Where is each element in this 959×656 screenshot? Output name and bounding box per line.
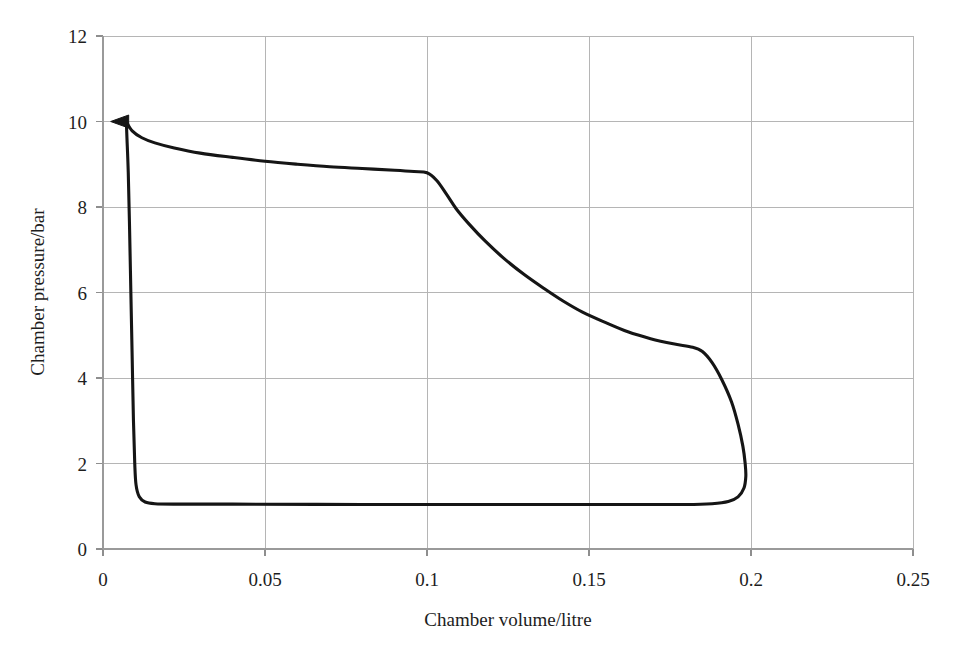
chart-background: [0, 0, 959, 656]
y-tick-label: 6: [78, 283, 88, 304]
y-tick-label: 4: [78, 368, 88, 389]
x-tick-label: 0.2: [739, 569, 763, 590]
x-tick-label: 0.15: [572, 569, 605, 590]
y-tick-label: 8: [78, 197, 88, 218]
pressure-volume-chart: 00.050.10.150.20.25 024681012 Chamber vo…: [0, 0, 959, 656]
y-tick-label: 2: [78, 454, 88, 475]
y-tick-label: 0: [78, 539, 88, 560]
chart-figure: 00.050.10.150.20.25 024681012 Chamber vo…: [0, 0, 959, 656]
x-tick-label: 0.1: [415, 569, 439, 590]
x-tick-label: 0.05: [248, 569, 281, 590]
x-tick-label: 0.25: [896, 569, 929, 590]
x-axis-title: Chamber volume/litre: [424, 609, 591, 630]
y-tick-label: 10: [68, 112, 87, 133]
x-tick-label: 0: [98, 569, 108, 590]
y-axis-title: Chamber pressure/bar: [27, 208, 48, 376]
y-tick-label: 12: [68, 26, 87, 47]
